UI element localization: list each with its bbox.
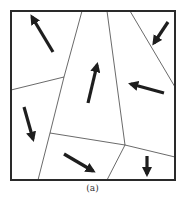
grain-boundaries xyxy=(11,11,175,180)
outer-frame xyxy=(11,11,175,180)
grain-boundary xyxy=(50,133,125,145)
arrow-icon xyxy=(32,17,53,52)
grain-boundary xyxy=(11,77,64,90)
figure-caption: (a) xyxy=(0,183,185,193)
arrow-icon xyxy=(24,107,33,139)
arrow-icon xyxy=(154,22,168,43)
grain-diagram xyxy=(0,0,185,202)
arrow-icon xyxy=(88,65,97,103)
arrow-icon xyxy=(64,154,93,171)
arrow-icon xyxy=(131,84,164,93)
grain-boundary xyxy=(125,145,175,157)
grain-boundary xyxy=(107,11,125,180)
